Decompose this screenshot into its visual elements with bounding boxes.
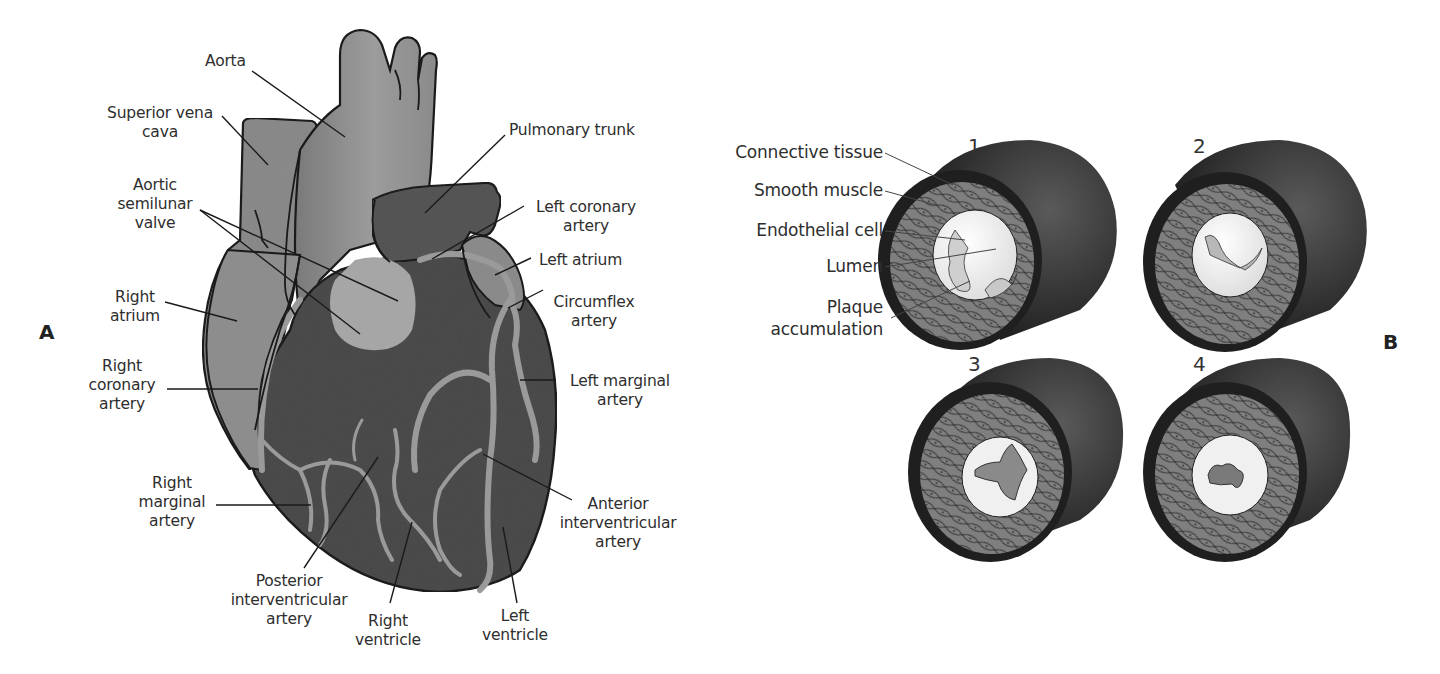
vessel-stage-4 [1143,358,1350,562]
figure: A Aorta Superior vena cava Aortic semilu… [0,0,1440,674]
stage-number-2: 2 [1193,134,1206,158]
vessel-stage-1 [878,140,1117,350]
label-lumen: Lumen [700,257,883,276]
panel-marker-b: B [1383,330,1398,354]
label-connective-tissue: Connective tissue [700,143,883,162]
stage-number-4: 4 [1193,352,1206,376]
stage-number-3: 3 [968,352,981,376]
stage-number-1: 1 [968,134,981,158]
vessel-stage-3 [908,358,1123,562]
label-smooth-muscle: Smooth muscle [700,181,883,200]
label-endothelial-cell: Endothelial cell [700,221,883,240]
label-plaque-accumulation: Plaque accumulation [700,296,883,340]
vessel-stage-2 [1143,140,1367,352]
